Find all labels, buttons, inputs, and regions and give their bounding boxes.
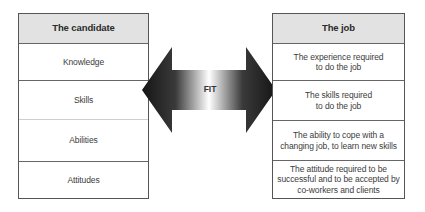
candidate-header: The candidate	[19, 14, 148, 44]
job-row-attitude: The attitude required to be successful a…	[273, 161, 404, 198]
job-row-ability: The ability to cope with a changing job,…	[273, 121, 404, 161]
candidate-table: The candidate Knowledge Skills Abilities…	[18, 13, 149, 199]
job-table: The job The experience required to do th…	[272, 13, 405, 199]
candidate-row-knowledge: Knowledge	[19, 44, 148, 81]
job-row-experience: The experience required to do the job	[273, 44, 404, 81]
job-header: The job	[273, 14, 404, 44]
job-row-skills: The skills required to do the job	[273, 81, 404, 121]
candidate-row-abilities: Abilities	[19, 120, 148, 162]
candidate-row-skills: Skills	[19, 81, 148, 120]
fit-label: FIT	[195, 84, 225, 94]
candidate-row-attitudes: Attitudes	[19, 162, 148, 198]
